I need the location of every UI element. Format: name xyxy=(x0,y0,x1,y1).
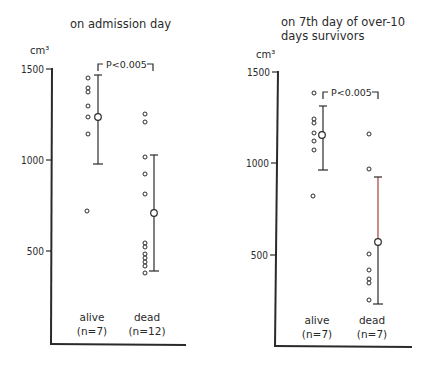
x-axis xyxy=(50,344,186,345)
y-axis xyxy=(275,71,278,346)
group-alive xyxy=(311,91,328,198)
category-n-alive: (n=7) xyxy=(302,328,332,340)
y-tick-label: 1500 xyxy=(247,67,270,78)
data-points xyxy=(143,112,147,275)
category-n-alive: (n=7) xyxy=(77,325,107,337)
panel-title-line-1: on 7th day of over-10 xyxy=(281,15,405,29)
significance-bracket xyxy=(98,64,103,71)
data-points xyxy=(367,132,371,302)
significance-bracket xyxy=(147,64,153,71)
y-axis xyxy=(51,68,52,344)
category-label-alive: alive xyxy=(80,311,105,323)
p-value-label: P<0.005 xyxy=(106,59,147,70)
mean-marker xyxy=(319,132,326,139)
y-tick-label: 500 xyxy=(251,250,268,261)
category-n-dead: (n=12) xyxy=(128,325,165,337)
data-points xyxy=(85,76,90,213)
p-value-label: P<0.005 xyxy=(331,87,372,98)
panel-7th-day: on 7th day of over-10 days survivors cm³… xyxy=(246,15,412,347)
data-points xyxy=(311,91,316,198)
category-label-dead: dead xyxy=(359,314,385,326)
category-n-dead: (n=7) xyxy=(357,328,387,340)
mean-marker xyxy=(151,210,158,217)
panel-title: on admission day xyxy=(70,17,171,31)
mean-marker xyxy=(95,114,102,121)
y-tick-label: 1500 xyxy=(21,64,44,75)
group-alive xyxy=(85,75,103,213)
group-dead xyxy=(367,132,383,304)
y-tick-label: 1000 xyxy=(246,158,269,169)
chart-canvas: on admission day cm³ 1500 1000 500 P<0.0… xyxy=(0,0,429,367)
panel-admission-day: on admission day cm³ 1500 1000 500 P<0.0… xyxy=(21,17,186,345)
x-axis xyxy=(274,346,412,347)
significance-bracket xyxy=(372,92,378,99)
mean-marker xyxy=(375,239,382,246)
y-tick-label: 1000 xyxy=(21,155,44,166)
y-unit-label: cm³ xyxy=(256,49,275,60)
category-label-alive: alive xyxy=(305,314,330,326)
group-dead xyxy=(143,112,159,275)
panel-title-line-2: days survivors xyxy=(281,29,364,43)
y-unit-label: cm³ xyxy=(30,45,49,56)
y-tick-label: 500 xyxy=(27,246,44,257)
category-label-dead: dead xyxy=(134,311,160,323)
significance-bracket xyxy=(323,92,328,99)
